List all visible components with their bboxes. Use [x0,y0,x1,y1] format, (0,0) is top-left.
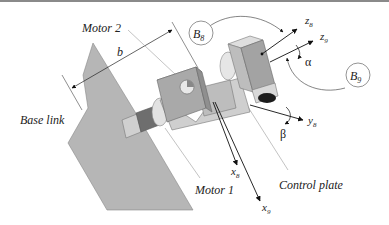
x8-label: x8 [230,165,240,180]
motor1-label: Motor 1 [194,183,234,197]
beta-label: β [280,127,286,141]
alpha-rotation-arc [296,45,300,59]
base-link-label: Base link [20,113,65,127]
z8-axis [262,29,297,54]
x9-label: x9 [261,201,271,216]
motor2-leader [128,30,176,75]
motor2-label: Motor 2 [81,21,121,35]
dimension-b-label: b [117,45,123,59]
z8-label: z8 [304,14,313,29]
control-plate-label: Control plate [279,178,344,192]
z9-label: z9 [319,30,328,45]
two-axis-gimbal-diagram: b [0,0,389,225]
diagram-canvas: b [0,0,389,225]
motor1-leader [165,128,200,178]
b9-pointer-arc [287,58,345,90]
alpha-label: α [305,55,312,69]
y8-label: y8 [307,114,317,129]
y8-axis [250,105,303,120]
b8-pointer-arc [207,16,283,32]
